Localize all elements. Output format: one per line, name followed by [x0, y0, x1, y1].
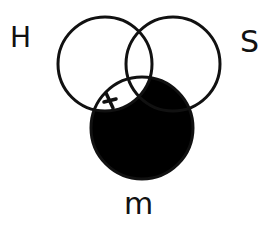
label-s: S: [240, 27, 259, 57]
venn-diagram: H S m: [0, 0, 277, 240]
label-m: m: [124, 189, 153, 219]
label-h: H: [10, 24, 31, 52]
